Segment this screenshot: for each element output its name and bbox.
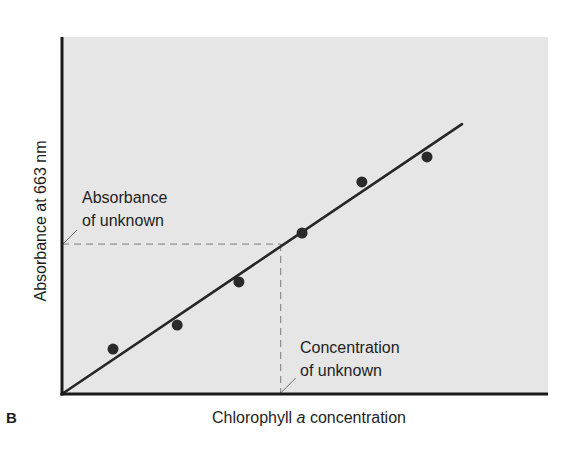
concentration-annotation-line-2: of unknown xyxy=(300,362,382,379)
data-point xyxy=(421,151,432,162)
absorbance-annotation-line-2: of unknown xyxy=(82,212,164,229)
standard-curve-chart: Absorbance of unknown Concentration of u… xyxy=(0,0,577,452)
data-point xyxy=(172,320,183,331)
data-point xyxy=(108,344,119,355)
panel-label: B xyxy=(6,409,17,426)
x-axis-label-start: Chlorophyll xyxy=(212,409,296,426)
data-point xyxy=(356,176,367,187)
concentration-annotation-line-1: Concentration xyxy=(300,339,400,356)
data-point xyxy=(233,276,244,287)
x-axis-label-italic: a xyxy=(297,409,306,426)
x-axis-label-end: concentration xyxy=(305,409,406,426)
y-axis-label: Absorbance at 663 nm xyxy=(32,141,49,302)
absorbance-annotation-line-1: Absorbance xyxy=(82,189,167,206)
data-point xyxy=(297,227,308,238)
x-axis-label: Chlorophyll a concentration xyxy=(212,409,406,426)
